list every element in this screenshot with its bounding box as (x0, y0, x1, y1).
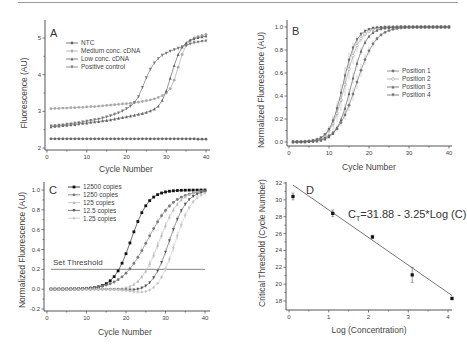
data-point (113, 281, 116, 284)
data-point (161, 54, 164, 57)
data-point (172, 228, 175, 231)
data-point (181, 53, 184, 56)
data-point (129, 102, 132, 105)
x-axis-label-d: Log (Concentration) (331, 325, 406, 335)
y-tick-label: 20 (275, 281, 282, 287)
x-tick-label: 20 (366, 150, 373, 156)
x-tick-label: 10 (326, 150, 333, 156)
data-point (117, 269, 120, 272)
legend-label: Position 2 (402, 75, 431, 82)
data-point (172, 201, 175, 204)
data-point (352, 54, 355, 57)
y-tick-label: 28 (275, 214, 282, 220)
data-point (129, 137, 132, 140)
data-point (160, 192, 163, 195)
data-point (180, 209, 183, 212)
data-point (129, 267, 132, 270)
legend-marker (73, 193, 76, 196)
data-point (133, 137, 136, 140)
x-tick-label: 30 (406, 150, 413, 156)
data-point (161, 99, 164, 102)
data-point (77, 106, 80, 109)
data-point (117, 278, 120, 281)
data-point (380, 34, 383, 37)
y-tick-label: 26 (275, 231, 282, 237)
legend-label: Position 3 (402, 83, 431, 90)
x-tick-label: 40 (202, 315, 209, 321)
data-point (340, 92, 343, 95)
y-tick-label: 4 (38, 72, 42, 78)
data-point (144, 242, 147, 245)
legend-label: Low conc. cDNA (81, 55, 130, 62)
data-point (172, 246, 175, 250)
data-point (50, 107, 53, 110)
x-tick-label: 0 (45, 154, 49, 160)
panel-label-b: B (292, 25, 299, 37)
data-point (168, 257, 171, 261)
data-point (356, 44, 359, 47)
y-tick-label: 3 (38, 108, 42, 114)
data-point (364, 33, 367, 36)
data-point (352, 47, 355, 50)
series-line-4 (51, 193, 205, 292)
data-point (356, 62, 359, 65)
data-point (101, 104, 104, 107)
legend-label: Medium conc. cDNA (81, 47, 141, 54)
data-point (125, 137, 128, 140)
data-point (164, 191, 167, 194)
data-point (388, 29, 391, 32)
series-line-0 (51, 190, 205, 289)
data-point (121, 262, 124, 265)
y-tick-label: 2 (38, 145, 42, 151)
y-axis-label-d: Critical Threshold (Cycle Number) (257, 179, 267, 307)
data-point (344, 113, 347, 116)
x-tick-label: 30 (163, 154, 170, 160)
data-point (196, 193, 199, 196)
data-point (148, 288, 151, 292)
y-tick-label: 0.2 (275, 116, 284, 122)
data-point (188, 189, 191, 192)
data-point (148, 234, 151, 237)
data-point (85, 106, 88, 109)
y-tick-label: 1.0 (32, 187, 41, 193)
x-tick-label: 40 (203, 154, 210, 160)
data-point (101, 285, 104, 288)
data-point (344, 106, 347, 109)
y-axis-label-b: Normalized Fluorescence (AU) (256, 32, 266, 148)
panel-label-a: A (50, 27, 58, 39)
data-point (93, 137, 96, 140)
y-axis-label-a: Fluorescence (AU) (19, 57, 29, 128)
data-point (65, 107, 68, 110)
data-point (81, 137, 84, 140)
data-point (291, 195, 294, 198)
data-point (129, 105, 132, 108)
data-point (177, 137, 180, 140)
data-point (177, 66, 180, 69)
data-point (69, 106, 72, 109)
y-tick-label: 30 (275, 197, 282, 203)
panel-label-c: C (49, 184, 57, 196)
data-point (360, 37, 363, 40)
data-point (93, 105, 96, 108)
data-point (173, 137, 176, 140)
data-point (109, 104, 112, 107)
data-point (161, 94, 164, 97)
data-point (125, 102, 128, 105)
data-point (121, 103, 124, 106)
data-point (169, 87, 172, 90)
data-point (173, 79, 176, 82)
data-point (62, 107, 65, 110)
data-point (109, 279, 112, 282)
legend-label: 12.5 copies (83, 207, 117, 215)
data-point (89, 105, 92, 108)
data-point (101, 137, 104, 140)
data-point (168, 190, 171, 193)
y-tick-label: 0.6 (32, 227, 41, 233)
data-point (145, 99, 148, 102)
data-point (65, 137, 68, 140)
data-point (152, 196, 155, 199)
series-line-3 (51, 192, 205, 290)
data-point (180, 198, 183, 201)
y-tick-label: 0.0 (275, 139, 284, 145)
data-point (73, 137, 76, 140)
